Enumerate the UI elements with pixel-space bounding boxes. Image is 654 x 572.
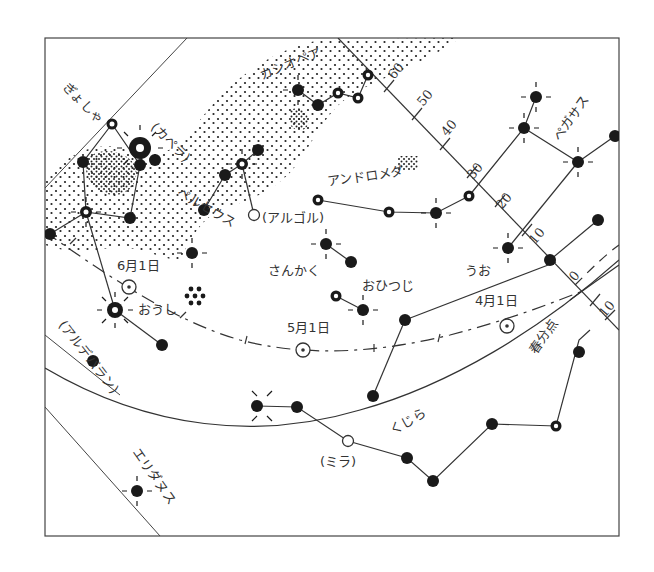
label-algol: (アルゴル) bbox=[262, 210, 324, 225]
label-mira: (ミラ) bbox=[320, 454, 356, 469]
algol-star bbox=[249, 210, 260, 221]
label-taurus: おうし bbox=[138, 302, 177, 317]
label-may-1: 5月1日 bbox=[287, 320, 330, 335]
mira-star bbox=[343, 436, 354, 447]
star-chart: ぎょしゃ カシオペア ペルセウス アンドロメダ ペガサス さんかく おひつじ う… bbox=[0, 0, 654, 572]
label-triangulum: さんかく bbox=[268, 263, 320, 278]
label-april-1: 4月1日 bbox=[475, 293, 518, 308]
label-pisces: うお bbox=[465, 263, 491, 278]
label-june-1: 6月1日 bbox=[117, 258, 160, 273]
label-aries: おひつじ bbox=[362, 278, 414, 293]
